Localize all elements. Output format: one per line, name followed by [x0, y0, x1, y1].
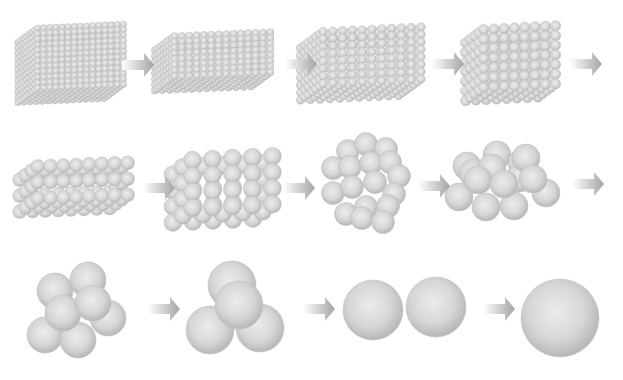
sphere [489, 24, 499, 34]
sphere [509, 42, 519, 52]
sphere [252, 69, 259, 76]
sphere [530, 60, 540, 70]
cluster-stage-12 [521, 279, 599, 357]
sphere [358, 63, 367, 72]
arrow-right-icon [432, 52, 464, 76]
sphere [406, 277, 466, 337]
sphere [120, 81, 126, 87]
sphere [550, 79, 560, 89]
sphere [540, 69, 550, 79]
sphere [348, 26, 357, 35]
sphere [183, 167, 201, 185]
sphere [530, 51, 540, 61]
sphere [509, 81, 519, 91]
sphere [319, 64, 328, 73]
sphere [31, 175, 45, 189]
sphere [230, 70, 237, 77]
sphere [509, 23, 519, 33]
sphere [348, 78, 357, 87]
sphere [540, 40, 550, 50]
sphere [358, 77, 367, 86]
arrow-right-icon [283, 176, 315, 200]
sphere [263, 147, 281, 165]
sphere [203, 198, 221, 216]
sphere [489, 62, 499, 72]
cluster-stage-10 [186, 261, 284, 354]
sphere [53, 84, 59, 90]
sphere [407, 75, 416, 84]
sphere [550, 21, 560, 31]
sphere [550, 40, 560, 50]
sphere [489, 33, 499, 43]
sphere [550, 69, 560, 79]
sphere [186, 72, 193, 79]
sphere [108, 156, 122, 170]
sphere [417, 60, 426, 69]
sphere [178, 72, 185, 79]
sphere [208, 71, 215, 78]
sphere [368, 47, 377, 56]
sphere [114, 81, 120, 87]
sphere [499, 23, 509, 33]
sphere [478, 82, 488, 92]
sphere [387, 46, 396, 55]
sphere [472, 193, 500, 221]
sphere [338, 63, 347, 72]
cluster-stage-8 [445, 141, 560, 221]
nanoparticle-sequence-figure [0, 0, 623, 380]
sphere [397, 61, 406, 70]
sphere [499, 81, 509, 91]
sphere [121, 172, 135, 186]
sphere [121, 188, 135, 202]
sphere [96, 82, 102, 88]
sphere [56, 158, 70, 172]
sphere [243, 164, 261, 182]
sphere [223, 197, 241, 215]
sphere [223, 181, 241, 199]
sphere [368, 70, 377, 79]
cluster-stage-9 [27, 262, 126, 358]
sphere [530, 41, 540, 51]
sphere [243, 180, 261, 198]
cluster-stage-11 [343, 277, 466, 340]
arrow-right-icon [572, 172, 604, 196]
sphere [499, 72, 509, 82]
sphere [397, 31, 406, 40]
sphere [378, 77, 387, 86]
sphere [82, 157, 96, 171]
sphere [44, 175, 58, 189]
sphere [223, 70, 230, 77]
sphere [44, 159, 58, 173]
sphere [540, 31, 550, 41]
sphere [183, 151, 201, 169]
sphere [245, 70, 252, 77]
sphere [338, 34, 347, 43]
sphere [83, 83, 89, 89]
sphere [343, 280, 403, 340]
sphere [489, 72, 499, 82]
sphere [489, 82, 499, 92]
sphere [95, 157, 109, 171]
sphere [215, 281, 263, 329]
sphere [263, 179, 281, 197]
sphere [193, 72, 200, 79]
sphere [329, 49, 338, 58]
sphere [520, 42, 530, 52]
sphere [69, 174, 83, 188]
sphere [203, 150, 221, 168]
sphere [319, 35, 328, 44]
sphere [34, 85, 40, 91]
sphere [499, 52, 509, 62]
sphere [95, 173, 109, 187]
sphere [530, 22, 540, 32]
sphere [550, 50, 560, 60]
sphere [378, 32, 387, 41]
sphere [82, 173, 96, 187]
sphere [203, 166, 221, 184]
sphere [95, 189, 109, 203]
sphere [237, 70, 244, 77]
cluster-stage-2 [151, 29, 274, 94]
sphere [319, 79, 328, 88]
sphere [407, 68, 416, 77]
sphere [171, 73, 178, 80]
